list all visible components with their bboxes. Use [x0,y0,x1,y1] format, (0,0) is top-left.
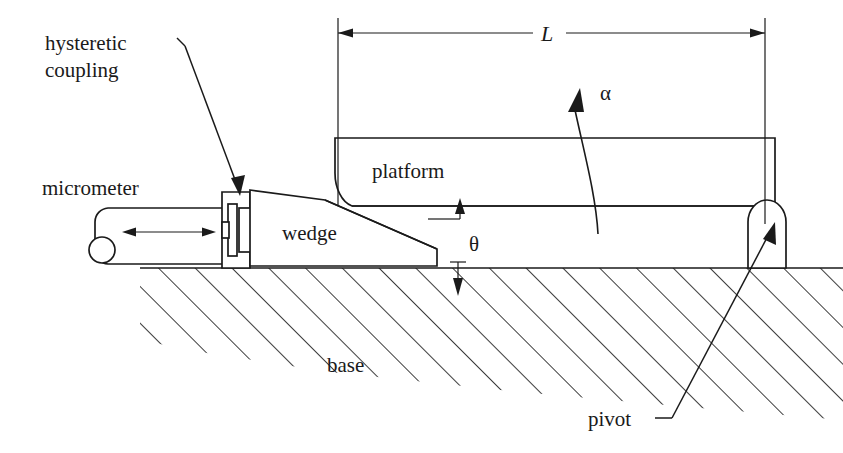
micrometer-knob [89,237,115,263]
micrometer-body [89,208,228,264]
pivot-label: pivot [588,407,631,431]
micrometer-label: micrometer [42,176,139,200]
wedge-label: wedge [282,221,337,245]
base-region [140,268,843,420]
figure-canvas: base micrometer wedge [0,0,843,453]
base-label: base [327,353,364,377]
alpha-label: α [600,81,611,105]
platform-label: platform [372,159,444,183]
hysteretic-coupling-label-line1: hysteretic [45,31,127,55]
base-hatch-fill [140,268,843,420]
hysteretic-coupling-assembly [222,192,251,268]
hysteretic-coupling-leader [177,38,245,196]
hysteretic-coupling-label-line2: coupling [45,58,119,82]
theta-label: θ [469,232,479,256]
length-dimension-label: L [540,21,553,46]
